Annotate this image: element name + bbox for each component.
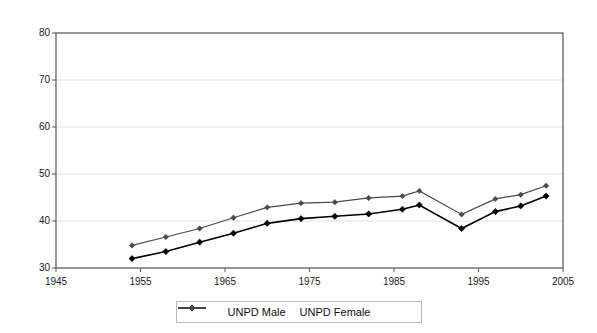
data-point-marker [129, 256, 135, 262]
data-point-marker [417, 188, 422, 193]
data-point-marker [366, 211, 372, 217]
y-tick-label: 30 [18, 262, 50, 273]
line-chart: 304050607080 194519551965197519851995200… [0, 0, 597, 333]
x-tick-label: 1975 [285, 276, 335, 287]
x-tick-label: 1985 [369, 276, 419, 287]
data-point-marker [400, 193, 405, 198]
x-tick-label: 2005 [538, 276, 588, 287]
data-point-marker [265, 205, 270, 210]
x-tick-label: 1955 [116, 276, 166, 287]
y-tick-label: 70 [18, 74, 50, 85]
y-tick-label: 80 [18, 27, 50, 38]
data-point-marker [459, 212, 464, 217]
plot-area-border [56, 33, 563, 268]
data-point-marker [493, 196, 498, 201]
data-point-marker [163, 234, 168, 239]
data-point-marker [518, 203, 524, 209]
x-tick-label: 1965 [200, 276, 250, 287]
x-tick-label: 1945 [31, 276, 81, 287]
series-line [132, 196, 546, 259]
data-point-marker [543, 193, 549, 199]
data-point-marker [332, 200, 337, 205]
chart-legend: UNPD MaleUNPD Female [176, 301, 422, 323]
data-point-marker [230, 230, 236, 236]
legend-entry: UNPD Female [300, 306, 371, 318]
data-point-marker [416, 202, 422, 208]
legend-marker-icon [177, 302, 207, 314]
data-point-marker [298, 200, 303, 205]
data-point-marker [197, 239, 203, 245]
data-point-marker [332, 213, 338, 219]
y-tick-label: 40 [18, 215, 50, 226]
data-point-marker [231, 215, 236, 220]
data-point-marker [543, 183, 548, 188]
data-point-marker [492, 209, 498, 215]
x-tick-label: 1995 [454, 276, 504, 287]
data-point-marker [197, 226, 202, 231]
y-tick-label: 50 [18, 168, 50, 179]
data-point-marker [518, 192, 523, 197]
data-point-marker [163, 248, 169, 254]
data-point-marker [399, 206, 405, 212]
y-tick-label: 60 [18, 121, 50, 132]
data-point-marker [129, 243, 134, 248]
legend-label: UNPD Female [300, 306, 371, 318]
data-point-marker [459, 225, 465, 231]
legend-label: UNPD Male [228, 306, 286, 318]
legend-entry: UNPD Male [228, 306, 286, 318]
data-point-marker [366, 195, 371, 200]
